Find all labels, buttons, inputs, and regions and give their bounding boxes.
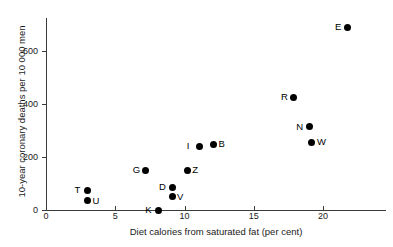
data-point-label: G <box>133 165 140 175</box>
data-point-marker <box>84 197 91 204</box>
x-tick <box>115 206 116 210</box>
data-point-marker <box>308 139 315 146</box>
y-axis-line <box>46 18 47 211</box>
x-tick-label: 5 <box>100 211 130 221</box>
data-point-label: N <box>296 122 303 132</box>
x-tick <box>185 206 186 210</box>
x-tick <box>254 206 255 210</box>
data-point-label: U <box>93 196 100 206</box>
y-tick <box>42 104 47 105</box>
data-point-label: B <box>219 139 225 149</box>
data-point-label: R <box>281 92 288 102</box>
data-point-marker <box>210 141 217 148</box>
x-axis-title: Diet calories from saturated fat (per ce… <box>46 226 386 237</box>
y-axis-title: 10-year coronary deaths per 10 000 men <box>16 12 27 212</box>
data-point-marker <box>184 167 191 174</box>
data-point-label: W <box>317 137 326 147</box>
data-point-label: K <box>145 205 151 215</box>
y-tick <box>42 51 47 52</box>
x-tick-label: 15 <box>239 211 269 221</box>
data-point-marker <box>344 24 351 31</box>
data-point-marker <box>306 123 313 130</box>
y-tick <box>42 210 47 211</box>
data-point-marker <box>169 193 176 200</box>
data-point-marker <box>169 184 176 191</box>
x-tick-label: 20 <box>308 211 338 221</box>
x-tick <box>323 206 324 210</box>
data-point-label: I <box>187 141 190 151</box>
data-point-marker <box>84 187 91 194</box>
data-point-label: Z <box>192 165 198 175</box>
data-point-label: E <box>335 22 341 32</box>
data-point-marker <box>196 143 203 150</box>
x-tick-label: 10 <box>170 211 200 221</box>
scatter-chart: 05101520 0200400600 TUKGDVZIBRNWE Diet c… <box>0 0 393 247</box>
data-point-label: V <box>177 192 183 202</box>
data-point-marker <box>290 94 297 101</box>
plot-area: 05101520 0200400600 TUKGDVZIBRNWE Diet c… <box>0 0 393 247</box>
data-point-marker <box>142 167 149 174</box>
data-point-label: T <box>75 185 81 195</box>
data-point-label: D <box>159 182 166 192</box>
data-point-marker <box>155 207 162 214</box>
y-tick <box>42 157 47 158</box>
